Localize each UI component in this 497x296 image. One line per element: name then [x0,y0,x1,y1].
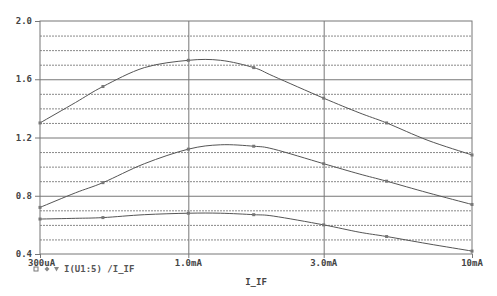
series-line-1 [40,59,472,155]
diamond-marker-icon [101,181,104,184]
y-axis-ticks: 0.40.81.21.62.0 [16,16,40,259]
x-tick-label: 10mA [461,258,483,268]
diamond-marker-icon [322,162,325,165]
legend-triangle-marker-icon [54,267,59,272]
legend-label: I(U1:5) /I_IF [64,264,134,274]
y-tick-label: 1.6 [16,74,32,84]
triangle-marker-icon [322,223,325,226]
diamond-marker-icon [252,145,255,148]
square-marker-icon [101,85,104,88]
triangle-marker-icon [471,250,474,253]
series-line-2 [40,145,472,208]
square-marker-icon [385,121,388,124]
diamond-marker-icon [385,180,388,183]
square-marker-icon [39,121,42,124]
square-marker-icon [187,59,190,62]
line-chart: 0.40.81.21.62.0 300uA1.0mA3.0mA10mA I_IF… [0,0,497,296]
triangle-marker-icon [252,213,255,216]
x-axis-label: I_IF [245,277,267,287]
y-tick-label: 2.0 [16,16,32,26]
square-marker-icon [322,97,325,100]
triangle-marker-icon [385,235,388,238]
triangle-marker-icon [187,212,190,215]
major-gridlines [40,21,472,254]
diamond-marker-icon [39,206,42,209]
square-marker-icon [471,153,474,156]
y-tick-label: 1.2 [16,133,32,143]
x-tick-label: 1.0mA [175,258,203,268]
diamond-marker-icon [187,148,190,151]
x-tick-label: 300uA [28,258,56,268]
square-marker-icon [252,66,255,69]
data-series [39,59,474,253]
series-line-3 [40,213,472,251]
y-tick-label: 0.8 [16,191,32,201]
x-tick-label: 3.0mA [310,258,338,268]
triangle-marker-icon [101,216,104,219]
triangle-marker-icon [39,218,42,221]
diamond-marker-icon [471,203,474,206]
